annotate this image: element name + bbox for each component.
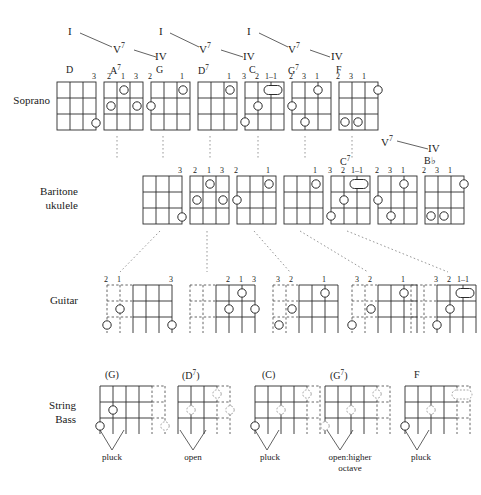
fingers-guitar-4c: 1–1 — [457, 276, 469, 284]
fingers-baritone-1b: 1 — [207, 167, 211, 175]
fingers-baritone-4c: 1–1 — [351, 167, 363, 175]
fretboard-bass-2 — [251, 386, 320, 450]
fingers-soprano-4b: 2 — [255, 73, 259, 81]
fretboard-guitar-4 — [411, 285, 476, 333]
fretboard-guitar-0 — [103, 285, 176, 333]
fingers-baritone-5b: 3 — [388, 167, 392, 175]
fingers-guitar-3c: 1 — [401, 276, 405, 284]
fingers-guitar-3b: 2 — [368, 276, 372, 284]
fretboard-guitar-1 — [190, 285, 259, 333]
fretboard-soprano-5 — [288, 82, 331, 130]
chart-graphics: .fb { stroke:#2b2b2b; stroke-width:0.9; … — [0, 0, 481, 495]
fingers-guitar-4b: 2 — [447, 276, 451, 284]
fingers-soprano-6a: 2 — [336, 73, 340, 81]
fingers-soprano-6b: 3 — [349, 73, 353, 81]
fingers-soprano-2a: 2 — [148, 73, 152, 81]
fingers-baritone-6a: 2 — [422, 167, 426, 175]
fingers-baritone-5c: 1 — [401, 167, 405, 175]
fingers-guitar-2c: 1 — [322, 276, 326, 284]
connector-soprano-baritone — [117, 136, 352, 160]
fingers-soprano-2b: 1 — [180, 73, 184, 81]
fretboard-baritone-5 — [374, 176, 417, 224]
fretboard-soprano-4 — [241, 82, 284, 130]
fretboard-baritone-1 — [190, 176, 229, 224]
fingers-soprano-0: 3 — [92, 73, 96, 81]
fingers-guitar-1c: 3 — [252, 276, 256, 284]
fingers-guitar-3a: 3 — [355, 276, 359, 284]
fingers-baritone-6b: 3 — [435, 167, 439, 175]
fingers-guitar-0b: 1 — [117, 276, 121, 284]
fretboard-baritone-6 — [425, 176, 468, 224]
fretboard-baritone-3 — [284, 176, 323, 224]
fretboard-baritone-4 — [327, 176, 370, 224]
fingers-soprano-5a: 2 — [289, 73, 293, 81]
fingers-soprano-5b: 3 — [302, 73, 306, 81]
fretboard-guitar-2 — [273, 285, 338, 333]
fingers-baritone-1a: 2 — [193, 167, 197, 175]
fretboard-baritone-2 — [233, 176, 276, 224]
fingers-soprano-4a: 3 — [242, 73, 246, 81]
fingers-soprano-1a: 2 — [107, 73, 111, 81]
fretboard-soprano-2 — [147, 82, 190, 130]
connector-baritone-guitar — [120, 231, 448, 272]
fretboard-bass-1 — [178, 386, 234, 450]
fretboard-soprano-3 — [198, 82, 237, 130]
fretboard-guitar-3 — [348, 285, 417, 333]
fretboard-soprano-1 — [104, 82, 143, 130]
fretboard-soprano-6 — [339, 82, 382, 130]
fingers-soprano-1c: 3 — [134, 73, 138, 81]
fingers-guitar-1a: 2 — [226, 276, 230, 284]
fingers-soprano-4c: 1–1 — [265, 73, 277, 81]
fretboard-bass-4 — [401, 386, 472, 450]
fingers-guitar-4a: 3 — [434, 276, 438, 284]
fretboard-bass-3 — [321, 386, 390, 450]
fingers-guitar-2b: 2 — [289, 276, 293, 284]
fingers-soprano-3a: 1 — [227, 73, 231, 81]
fingers-baritone-1c: 3 — [220, 167, 224, 175]
fingers-baritone-3a: 1 — [313, 167, 317, 175]
fingers-baritone-5a: 2 — [375, 167, 379, 175]
fingers-baritone-4b: 2 — [341, 167, 345, 175]
chord-chart-figure: I V7 IV I V7 IV I V7 IV V7 IV Soprano Ba… — [0, 0, 481, 495]
fingers-baritone-6c: 1 — [448, 167, 452, 175]
fingers-baritone-4a: 3 — [328, 167, 332, 175]
fretboard-baritone-0 — [143, 176, 186, 224]
fretboard-bass-0 — [96, 386, 169, 450]
fingers-guitar-1b: 1 — [239, 276, 243, 284]
fingers-soprano-6c: 1 — [362, 73, 366, 81]
fingers-baritone-2b: 1 — [266, 167, 270, 175]
fretboard-soprano-0 — [57, 82, 100, 130]
fingers-soprano-1b: 1 — [121, 73, 125, 81]
fingers-guitar-0c: 3 — [169, 276, 173, 284]
fingers-soprano-5c: 1 — [315, 73, 319, 81]
fingers-guitar-2a: 3 — [276, 276, 280, 284]
fingers-baritone-0: 3 — [178, 167, 182, 175]
fingers-baritone-2a: 2 — [234, 167, 238, 175]
fingers-guitar-0a: 2 — [104, 276, 108, 284]
